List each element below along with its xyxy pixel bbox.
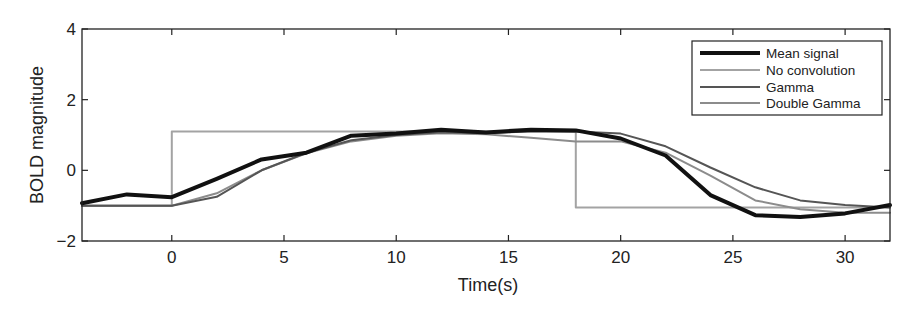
chart: 051015202530 −2024 Time(s) BOLD magnitud…	[0, 0, 914, 312]
plot-lines	[82, 130, 890, 217]
y-tick-label: 0	[67, 161, 76, 180]
y-tick-label: 2	[67, 91, 76, 110]
y-tick-labels: −2024	[57, 20, 76, 251]
x-tick-label: 15	[499, 248, 518, 267]
x-tick-labels: 051015202530	[167, 248, 855, 267]
y-tick-label: −2	[57, 232, 76, 251]
legend: Mean signalNo convolutionGammaDouble Gam…	[692, 41, 882, 115]
x-tick-label: 5	[279, 248, 288, 267]
legend-label: Mean signal	[766, 46, 839, 61]
legend-label: Double Gamma	[766, 96, 861, 111]
x-axis-label: Time(s)	[458, 275, 518, 295]
x-tick-label: 20	[611, 248, 630, 267]
y-tick-label: 4	[67, 20, 76, 39]
y-axis-label: BOLD magnitude	[27, 66, 47, 204]
legend-label: No convolution	[766, 63, 855, 78]
x-tick-label: 10	[387, 248, 406, 267]
legend-label: Gamma	[766, 80, 815, 95]
x-tick-label: 25	[723, 248, 742, 267]
x-tick-label: 0	[167, 248, 176, 267]
x-tick-label: 30	[836, 248, 855, 267]
series-line-double-gamma	[82, 133, 890, 213]
